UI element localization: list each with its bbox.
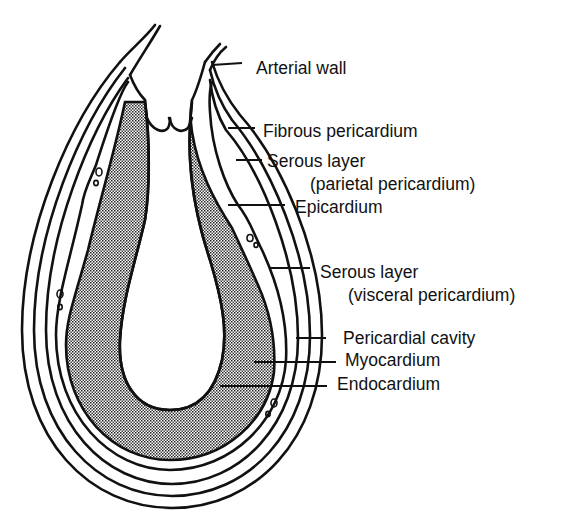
label-myocardium: Myocardium [345,350,440,370]
coronary-vessel [96,168,102,176]
label-serous-layer-visceral: Serous layer [320,262,418,282]
label-fibrous-pericardium: Fibrous pericardium [263,121,418,141]
label-visceral-pericardium: (visceral pericardium) [348,285,515,305]
coronary-vessel [94,180,98,185]
coronary-vessel [58,304,62,309]
label-parietal-pericardium: (parietal pericardium) [310,174,475,194]
valve-cusp-right [170,118,192,131]
arterial-wall-right-outer [205,44,220,62]
arterial-wall-left-inner [130,26,160,75]
label-pericardial-cavity: Pericardial cavity [343,328,475,348]
arterial-wall-right-lumen [192,62,205,100]
leader-arterial-wall [212,63,242,65]
label-endocardium: Endocardium [337,374,440,394]
label-arterial-wall: Arterial wall [256,58,346,78]
heart-wall-diagram [0,0,580,523]
coronary-vessel [247,235,253,242]
arterial-wall-left-lumen [130,75,145,100]
label-serous-layer-parietal: Serous layer [267,151,365,171]
valve-cusp-left [147,118,170,131]
label-epicardium: Epicardium [295,197,383,217]
coronary-vessel [254,243,258,248]
